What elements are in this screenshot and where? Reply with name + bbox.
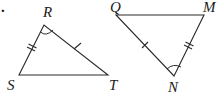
vertex-label-n: N (167, 79, 179, 95)
vertex-label-m: M (202, 0, 217, 15)
vertex-label-t: T (109, 77, 119, 93)
congruence-diagram: . R S T Q M N (0, 0, 223, 95)
rs-double-tick-icon (27, 44, 37, 51)
triangle-rst: R S T (7, 4, 119, 93)
bullet: . (1, 0, 5, 15)
vertex-label-q: Q (110, 0, 121, 15)
triangle-qmn: Q M N (110, 0, 217, 95)
triangle-qmn-outline (116, 15, 204, 76)
vertex-label-s: S (7, 77, 15, 93)
vertex-label-r: R (42, 4, 52, 20)
rt-single-tick-icon (74, 43, 81, 49)
